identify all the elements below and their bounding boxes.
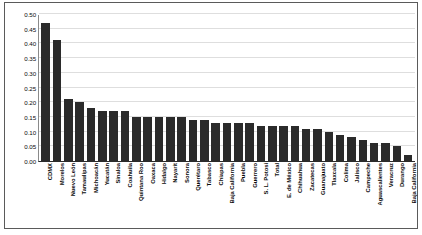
x-axis-tick: Tabasco	[199, 163, 208, 225]
bar	[291, 126, 300, 161]
x-axis-tick: Zacatecas	[302, 163, 311, 225]
x-axis-tick: Quintana Roo	[131, 163, 140, 225]
y-axis-tick-label: 0.05	[24, 144, 36, 150]
bar	[234, 123, 243, 161]
bar	[166, 117, 175, 161]
x-axis-tick-label: Baja California	[411, 163, 417, 204]
x-axis-tick: Yucatán	[97, 163, 106, 225]
bar	[347, 137, 356, 161]
plot-area	[38, 15, 415, 162]
y-axis-tick-label: 0.00	[24, 159, 36, 165]
x-axis-tick: Chihuahua	[290, 163, 299, 225]
x-axis-tick: S. L. Potosí	[256, 163, 265, 225]
x-axis-tick: Total	[268, 163, 277, 225]
bar	[75, 102, 84, 161]
x-axis-tick: Colima	[336, 163, 345, 225]
bar	[279, 126, 288, 161]
bar	[41, 23, 50, 161]
bar	[211, 123, 220, 161]
bar	[336, 135, 345, 161]
x-axis: CDMXMorelosNuevo LeónTamaulipasMichoacán…	[38, 163, 415, 225]
chart-figure: 0.500.450.400.350.300.250.200.150.100.05…	[0, 0, 422, 235]
bar	[313, 129, 322, 161]
bar	[132, 117, 141, 161]
bar	[143, 117, 152, 161]
bar	[268, 126, 277, 161]
y-axis-tick-label: 0.20	[24, 100, 36, 106]
x-axis-tick: Veracruz	[381, 163, 390, 225]
y-axis-tick-label: 0.25	[24, 85, 36, 91]
x-axis-tick: Tlaxcala	[324, 163, 333, 225]
y-axis-tick-label: 0.30	[24, 71, 36, 77]
x-axis-tick: Michoacán	[86, 163, 95, 225]
x-axis-tick: Hidalgo	[154, 163, 163, 225]
bar	[393, 146, 402, 161]
x-axis-tick: Guerrero	[245, 163, 254, 225]
bar	[87, 108, 96, 161]
gridline	[39, 13, 415, 14]
y-axis-tick-label: 0.50	[24, 12, 36, 18]
y-axis-tick-label: 0.15	[24, 115, 36, 121]
x-axis-tick: Jalisco	[347, 163, 356, 225]
bar	[404, 155, 413, 161]
x-axis-tick: Durango	[393, 163, 402, 225]
bar	[370, 143, 379, 161]
bar	[98, 111, 107, 161]
x-axis-tick: Tamaulipas	[74, 163, 83, 225]
x-axis-tick: Nuevo León	[63, 163, 72, 225]
bar	[155, 117, 164, 161]
bar	[177, 117, 186, 161]
bar	[325, 132, 334, 161]
x-axis-tick: Campeche	[358, 163, 367, 225]
x-axis-tick: CDMX	[40, 163, 49, 225]
bar	[257, 126, 266, 161]
x-axis-tick: Puebla	[234, 163, 243, 225]
y-axis-tick-label: 0.35	[24, 56, 36, 62]
figure-border: 0.500.450.400.350.300.250.200.150.100.05…	[4, 2, 418, 229]
bar-series	[39, 15, 415, 161]
y-axis: 0.500.450.400.350.300.250.200.150.100.05…	[14, 9, 37, 161]
x-axis-tick: Sinaloa	[109, 163, 118, 225]
x-axis-tick: E. de México	[279, 163, 288, 225]
bar	[381, 143, 390, 161]
x-axis-tick: Sonora	[177, 163, 186, 225]
x-axis-tick: Baja California	[404, 163, 413, 225]
x-axis-tick: Baja California	[222, 163, 231, 225]
x-axis-tick: Nayarit	[165, 163, 174, 225]
bar	[223, 123, 232, 161]
x-axis-tick: Guanajuato	[313, 163, 322, 225]
x-axis-tick: Coahuila	[120, 163, 129, 225]
x-axis-tick: Querétaro	[188, 163, 197, 225]
x-axis-tick: Morelos	[52, 163, 61, 225]
y-axis-tick-label: 0.40	[24, 41, 36, 47]
bar	[109, 111, 118, 161]
x-axis-tick: Chiapas	[211, 163, 220, 225]
x-axis-tick: Aguascalientes	[370, 163, 379, 225]
y-axis-tick-label: 0.45	[24, 27, 36, 33]
bar	[53, 40, 62, 161]
bar	[64, 99, 73, 161]
x-axis-tick: Oaxaca	[143, 163, 152, 225]
plot-block: 0.500.450.400.350.300.250.200.150.100.05…	[14, 9, 418, 225]
y-axis-tick-label: 0.10	[24, 129, 36, 135]
bar	[245, 123, 254, 161]
bar	[121, 111, 130, 161]
bar	[302, 129, 311, 161]
bar	[189, 120, 198, 161]
bar	[200, 120, 209, 161]
bar	[359, 140, 368, 161]
